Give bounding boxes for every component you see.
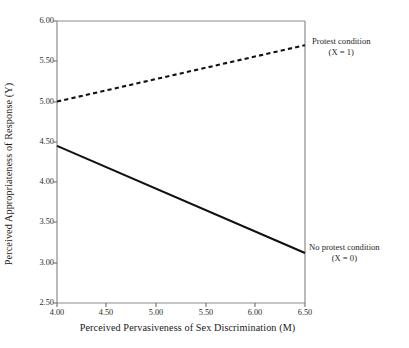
series-annotation-protest-line2: (X = 1) — [312, 47, 370, 58]
series-annotation-protest-line1: Protest condition — [312, 36, 370, 47]
series-annotation-protest-condition: Protest condition (X = 1) — [312, 36, 370, 58]
x-axis-title: Perceived Pervasiveness of Sex Discrimin… — [0, 322, 375, 333]
series-line-no-protest-condition — [57, 146, 305, 253]
series-annotation-no-protest-condition: No protest condition (X = 0) — [309, 242, 380, 264]
x-axis-title-text: Perceived Pervasiveness of Sex Discrimin… — [80, 322, 296, 333]
series-annotation-no-protest-line2: (X = 0) — [309, 253, 380, 264]
series-line-protest-condition — [57, 45, 305, 101]
interaction-plot-figure: Perceived Appropriateness of Response (Y… — [0, 0, 409, 348]
series-annotation-no-protest-line1: No protest condition — [309, 242, 380, 253]
